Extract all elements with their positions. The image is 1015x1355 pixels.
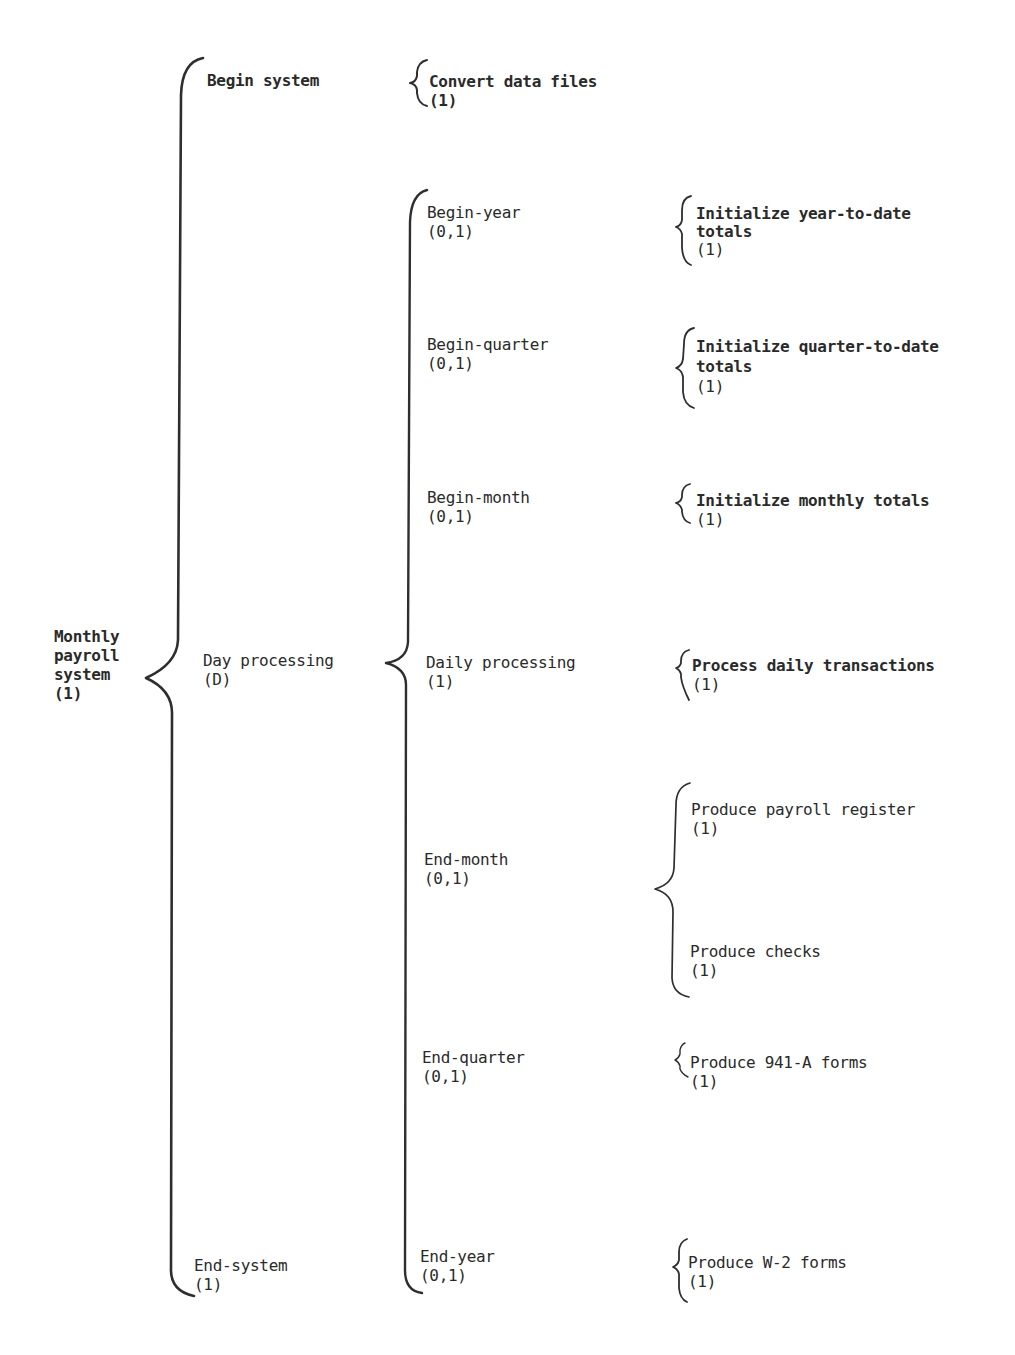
node-produce-w2-forms: Produce W-2 forms (1): [688, 1253, 847, 1291]
node-label: End-month: [424, 850, 508, 869]
node-repetition: (0,1): [427, 507, 530, 526]
node-begin-year: Begin-year (0,1): [427, 203, 520, 241]
node-repetition: (1): [696, 241, 911, 259]
begin-year-brace: [676, 196, 691, 265]
node-repetition: (1): [690, 1072, 867, 1091]
node-label: End-system: [194, 1256, 287, 1275]
node-repetition: (1): [696, 510, 929, 529]
daily-processing-brace: [676, 650, 689, 700]
node-repetition: (1): [54, 684, 119, 703]
node-label: Produce W-2 forms: [688, 1253, 847, 1272]
node-repetition: (0,1): [427, 222, 520, 241]
node-repetition: (D): [203, 670, 334, 689]
node-end-month: End-month (0,1): [424, 850, 508, 888]
node-end-quarter: End-quarter (0,1): [422, 1048, 525, 1086]
node-label-line: totals: [696, 223, 911, 241]
node-label: Produce 941-A forms: [690, 1053, 867, 1072]
node-label: End-quarter: [422, 1048, 525, 1067]
node-label: Begin-quarter: [427, 335, 548, 354]
node-day-processing: Day processing (D): [203, 651, 334, 689]
node-repetition: (0,1): [420, 1266, 495, 1285]
node-repetition: (1): [194, 1275, 287, 1294]
root-bracket: [146, 58, 203, 1296]
node-label: Produce payroll register: [691, 800, 915, 819]
node-produce-checks: Produce checks (1): [690, 942, 821, 980]
node-label-line: payroll: [54, 646, 119, 665]
node-label: Produce checks: [690, 942, 821, 961]
node-repetition: (1): [688, 1272, 847, 1291]
node-label: Process daily transactions: [692, 656, 935, 675]
node-repetition: (1): [429, 91, 597, 110]
node-label: Daily processing: [426, 653, 575, 672]
node-label: Begin system: [207, 71, 319, 90]
end-quarter-brace: [675, 1043, 688, 1077]
node-label: Initialize monthly totals: [696, 491, 929, 510]
node-label: Begin-year: [427, 203, 520, 222]
node-initialize-monthly-totals: Initialize monthly totals (1): [696, 491, 929, 529]
node-daily-processing: Daily processing (1): [426, 653, 575, 691]
node-begin-month: Begin-month (0,1): [427, 488, 530, 526]
node-initialize-qtd-totals: Initialize quarter-to-date totals (1): [696, 337, 939, 397]
node-produce-payroll-register: Produce payroll register (1): [691, 800, 915, 838]
node-begin-system: Begin system: [207, 71, 319, 90]
node-label-line: Initialize year-to-date: [696, 205, 911, 223]
node-produce-941a-forms: Produce 941-A forms (1): [690, 1053, 867, 1091]
node-initialize-ytd-totals: Initialize year-to-date totals (1): [696, 205, 911, 259]
node-repetition: (1): [426, 672, 575, 691]
node-end-system: End-system (1): [194, 1256, 287, 1294]
node-repetition: (1): [690, 961, 821, 980]
node-repetition: (0,1): [422, 1067, 525, 1086]
node-label: Convert data files: [429, 72, 597, 91]
day-processing-bracket: [386, 190, 427, 1293]
node-label: End-year: [420, 1247, 495, 1266]
node-label-line: totals: [696, 357, 939, 377]
node-label-line: system: [54, 665, 119, 684]
node-repetition: (0,1): [427, 354, 548, 373]
node-process-daily-transactions: Process daily transactions (1): [692, 656, 935, 694]
begin-month-brace: [676, 484, 690, 523]
begin-quarter-brace: [676, 328, 694, 408]
node-repetition: (1): [692, 675, 935, 694]
node-repetition: (1): [691, 819, 915, 838]
end-month-brace: [655, 783, 690, 997]
node-convert-data-files: Convert data files (1): [429, 72, 597, 110]
node-repetition: (0,1): [424, 869, 508, 888]
node-begin-quarter: Begin-quarter (0,1): [427, 335, 548, 373]
node-label-line: Monthly: [54, 627, 119, 646]
node-label: Begin-month: [427, 488, 530, 507]
node-repetition: (1): [696, 377, 939, 397]
node-monthly-payroll-system: Monthly payroll system (1): [54, 627, 119, 703]
begin-system-brace: [410, 60, 427, 106]
node-label-line: Initialize quarter-to-date: [696, 337, 939, 357]
node-label: Day processing: [203, 651, 334, 670]
node-end-year: End-year (0,1): [420, 1247, 495, 1285]
end-year-brace: [673, 1239, 687, 1302]
